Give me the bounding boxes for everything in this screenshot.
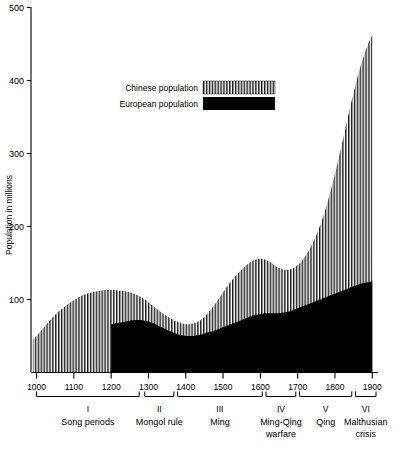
x-tick-label: 1700 — [288, 382, 307, 392]
y-tick-label: 400 — [9, 76, 24, 86]
period-axis: ISong periodsIIMongol ruleIIIMingIVMing-… — [37, 392, 388, 439]
x-axis: 1000110012001300140015001600170018001900 — [27, 373, 382, 392]
period-name: Ming-Qing — [260, 417, 302, 427]
period-bracket — [37, 392, 140, 397]
legend: Chinese population European population — [120, 81, 275, 110]
period-roman-numeral: III — [216, 404, 223, 414]
x-tick-label: 1100 — [65, 382, 84, 392]
period-roman-numeral: V — [323, 404, 329, 414]
x-tick-label: 1900 — [363, 382, 382, 392]
y-axis-title: Population in millions — [4, 175, 14, 255]
period-bracket — [300, 392, 352, 397]
y-axis-title-group: Population in millions — [4, 175, 14, 255]
period-name: Mongol rule — [136, 417, 183, 427]
period-name: Malthusian — [344, 417, 388, 427]
period-roman-numeral: I — [87, 404, 89, 414]
period-name: Song periods — [61, 417, 115, 427]
period-bracket — [355, 392, 376, 397]
legend-swatch-european-solid — [203, 97, 275, 110]
x-tick-label: 1800 — [326, 382, 345, 392]
x-tick-label: 1500 — [214, 382, 233, 392]
x-tick-label: 1400 — [176, 382, 195, 392]
x-tick-label: 1000 — [27, 382, 46, 392]
period-bracket — [266, 392, 296, 397]
population-chart: 100200300400500 100011001200130014001500… — [0, 0, 416, 451]
x-tick-label: 1600 — [251, 382, 270, 392]
chart-svg: 100200300400500 100011001200130014001500… — [0, 0, 416, 451]
period-roman-numeral: VI — [362, 404, 370, 414]
period-bracket — [178, 392, 263, 397]
legend-swatch-chinese-hatch — [203, 81, 275, 94]
period-roman-numeral: II — [157, 404, 162, 414]
legend-label-european: European population — [120, 99, 199, 109]
period-name: Qing — [316, 417, 335, 427]
y-tick-label: 500 — [9, 3, 24, 13]
y-tick-label: 100 — [9, 295, 24, 305]
x-tick-label: 1300 — [139, 382, 158, 392]
legend-label-chinese: Chinese population — [125, 83, 198, 93]
y-tick-label: 300 — [9, 149, 24, 159]
period-name: warfare — [265, 429, 296, 439]
period-name: crisis — [355, 429, 376, 439]
period-roman-numeral: IV — [277, 404, 285, 414]
period-bracket — [145, 392, 174, 397]
period-name: Ming — [210, 417, 230, 427]
x-tick-label: 1200 — [102, 382, 121, 392]
